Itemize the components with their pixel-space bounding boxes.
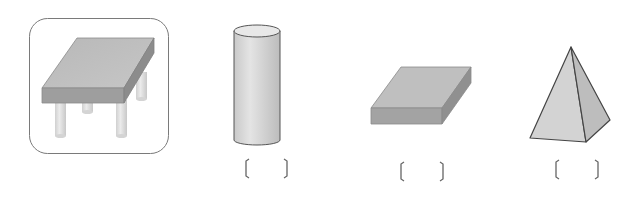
cylinder-figure: [234, 25, 280, 145]
table-leg-front-right: [116, 100, 127, 138]
bracket-close: [284, 159, 287, 178]
cylinder-top: [234, 25, 280, 37]
answer-blank-slab[interactable]: [401, 162, 443, 181]
slab-front-face: [371, 108, 442, 124]
answer-blank-cylinder[interactable]: [246, 159, 287, 178]
bracket-open: [246, 159, 249, 178]
bracket-open: [556, 160, 559, 179]
bracket-close: [440, 162, 443, 181]
table-figure: [30, 19, 169, 154]
table-front-face: [42, 88, 124, 103]
cylinder-body: [234, 31, 280, 145]
answer-blank-pyramid[interactable]: [556, 160, 598, 179]
bracket-close: [595, 160, 598, 179]
table-leg-front-left: [55, 100, 66, 138]
slab-figure: [371, 67, 471, 124]
figure-scene: [0, 0, 636, 199]
bracket-open: [401, 162, 404, 181]
pyramid-figure: [530, 47, 610, 142]
